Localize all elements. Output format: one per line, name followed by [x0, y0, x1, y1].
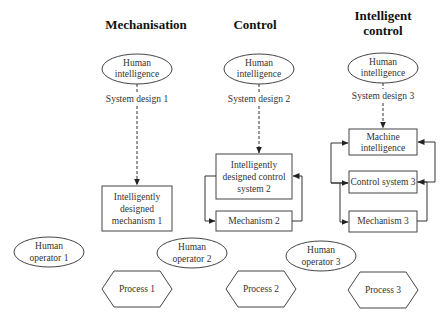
control-system-box: Control system 3	[349, 171, 417, 193]
human-intelligence-node: Human intelligence	[102, 54, 172, 84]
svg-text:system 2: system 2	[237, 184, 271, 194]
process-node: Process 1	[102, 271, 172, 307]
column-title-line2: control	[363, 23, 403, 38]
svg-text:Human: Human	[178, 242, 206, 252]
mechanism-box: Mechanism 3	[349, 211, 417, 232]
column-control: Control Human intelligence System design…	[157, 17, 302, 307]
svg-text:Process 3: Process 3	[365, 285, 401, 295]
svg-text:intelligence: intelligence	[361, 68, 405, 78]
control-system-box: Intelligently designed control system 2	[216, 154, 292, 199]
svg-text:Human: Human	[123, 58, 151, 68]
column-mechanisation: Mechanisation Human intelligence System …	[14, 17, 188, 307]
column-title: Intelligent	[354, 8, 412, 23]
svg-text:Control system 3: Control system 3	[351, 177, 416, 187]
svg-text:Human: Human	[369, 57, 397, 67]
svg-text:designed control: designed control	[222, 172, 285, 182]
svg-text:Mechanism 3: Mechanism 3	[357, 216, 409, 226]
svg-text:Mechanism 2: Mechanism 2	[228, 216, 280, 226]
svg-text:Human: Human	[245, 58, 273, 68]
column-title: Mechanisation	[105, 17, 187, 32]
svg-text:intelligence: intelligence	[361, 143, 405, 153]
svg-text:Process 1: Process 1	[119, 284, 155, 294]
human-operator-node: Human operator 2	[157, 238, 227, 268]
control-arrow	[205, 176, 216, 221]
system-design-label: System design 1	[106, 94, 169, 104]
svg-text:Intelligently: Intelligently	[114, 192, 161, 202]
svg-text:Intelligently: Intelligently	[231, 160, 278, 170]
control-to-mi-arrow	[331, 143, 348, 183]
svg-text:Human: Human	[307, 245, 335, 255]
svg-text:Machine: Machine	[366, 132, 399, 142]
feedback-arrow	[292, 176, 302, 221]
svg-text:operator 1: operator 1	[30, 253, 69, 263]
system-design-label: System design 2	[228, 94, 291, 104]
feedback-to-mi-arrow	[417, 142, 435, 182]
mechanism-box: Intelligently designed mechanism 1	[102, 186, 172, 231]
svg-text:operator 3: operator 3	[302, 257, 341, 267]
column-intelligent-control: Intelligent control Human intelligence S…	[286, 8, 435, 308]
svg-text:mechanism 1: mechanism 1	[112, 216, 163, 226]
svg-text:intelligence: intelligence	[115, 69, 159, 79]
svg-text:operator 2: operator 2	[173, 254, 212, 264]
human-operator-node: Human operator 3	[286, 241, 356, 271]
svg-text:Process 2: Process 2	[243, 284, 279, 294]
human-operator-node: Human operator 1	[14, 237, 84, 267]
column-title: Control	[233, 17, 276, 32]
process-node: Process 3	[348, 272, 418, 308]
feedback-to-control-arrow	[417, 182, 427, 221]
machine-intelligence-box: Machine intelligence	[349, 129, 417, 155]
svg-text:Human: Human	[35, 241, 63, 251]
diagram-canvas: Mechanisation Human intelligence System …	[0, 0, 447, 320]
human-intelligence-node: Human intelligence	[224, 54, 294, 84]
process-node: Process 2	[226, 271, 296, 307]
human-intelligence-node: Human intelligence	[348, 53, 418, 83]
system-design-label: System design 3	[352, 91, 415, 101]
mechanism-box: Mechanism 2	[216, 211, 292, 231]
svg-text:intelligence: intelligence	[237, 69, 281, 79]
control-to-mechanism-arrow	[340, 183, 348, 222]
svg-text:designed: designed	[120, 204, 154, 214]
